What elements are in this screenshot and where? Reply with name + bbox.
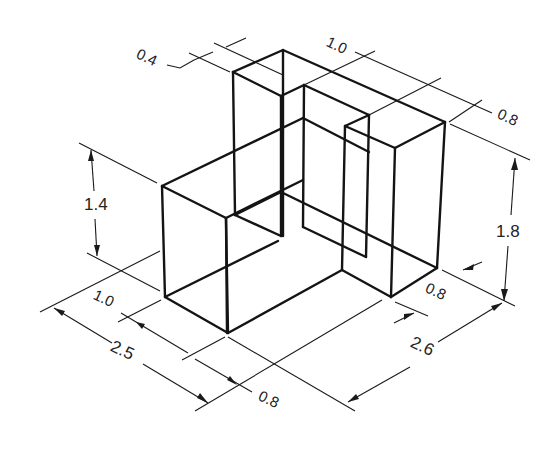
tall-column-top-right — [233, 72, 281, 96]
tick-top-1 — [194, 52, 213, 60]
arrow-0-8-bottom — [227, 376, 237, 385]
ext-line-1-4-top — [79, 143, 157, 183]
label-0-8-top: 0.8 — [495, 105, 521, 129]
object-wireframe — [162, 50, 445, 333]
isometric-drawing: 0.4 1.0 0.8 1.4 1.8 1.0 2.5 0.8 0.8 2.6 — [0, 0, 555, 449]
arrow-1-0-left — [136, 322, 145, 329]
middle-wall-top-edge — [304, 85, 369, 115]
arrow-1-4-bottom — [94, 245, 100, 256]
ext-line-top-a — [304, 51, 375, 85]
middle-wall-ledge — [345, 115, 369, 126]
right-block-bottom-left — [342, 270, 391, 297]
label-0-8-right: 0.8 — [423, 279, 449, 303]
ext-line-top-c — [449, 100, 482, 122]
dim-line-top — [355, 52, 492, 113]
arrow-2-6-right — [491, 303, 502, 311]
label-2-5: 2.5 — [108, 337, 137, 364]
leader-0-4 — [167, 60, 194, 68]
arrow-0-8-right-b — [404, 313, 414, 320]
ext-line-1-8-top — [450, 124, 530, 160]
label-1-0-left: 1.0 — [91, 286, 117, 310]
base-back-edge — [281, 192, 437, 268]
lower-block-inner-edge — [303, 118, 369, 152]
right-block-right-vertical — [437, 122, 445, 268]
label-0-8-bottom: 0.8 — [256, 387, 282, 411]
tall-column-left-edge — [233, 72, 235, 215]
arrow-2-5-right — [197, 393, 208, 403]
dim-line-0-8-bottom — [195, 359, 252, 392]
ext-line-top-1 — [189, 53, 230, 72]
tall-column-inner-top — [281, 85, 304, 96]
base-inner-edge — [235, 192, 281, 215]
tick-top-2 — [226, 38, 246, 47]
lower-block-front-left-face — [162, 186, 228, 333]
lower-block-bottom-back-edge — [165, 241, 278, 297]
label-0-4: 0.4 — [134, 45, 160, 69]
ext-line-top-b — [369, 78, 441, 115]
right-block-top-face — [345, 122, 445, 148]
arrow-0-8-right-a — [463, 264, 474, 270]
middle-wall-bottom-edge — [303, 227, 366, 257]
tall-column-diag — [235, 215, 281, 236]
label-1-0-top: 1.0 — [324, 33, 350, 57]
ext-line-bottom-right — [195, 300, 382, 411]
arrow-1-4-top — [88, 150, 94, 161]
arrow-2-5-left — [54, 308, 65, 316]
dim-line-2-6-b — [438, 303, 502, 342]
ext-line-left-mid — [118, 300, 161, 322]
label-1-4: 1.4 — [84, 195, 108, 214]
tall-column-outline — [233, 50, 283, 236]
right-block-left-vertical — [342, 126, 345, 270]
middle-wall-back-vertical — [303, 85, 304, 227]
lower-block-bottom-front-edge — [228, 270, 342, 333]
ext-line-top-2 — [214, 43, 283, 75]
arrow-1-8-top — [511, 158, 518, 170]
lower-block-mid-edge — [226, 218, 227, 333]
ext-line-left-front — [182, 337, 225, 360]
right-block-front-vertical — [391, 148, 395, 297]
arrow-2-6-left — [348, 394, 359, 402]
ext-line-2-6-left — [228, 337, 355, 411]
label-2-6: 2.6 — [408, 333, 437, 360]
label-1-8: 1.8 — [496, 222, 520, 241]
